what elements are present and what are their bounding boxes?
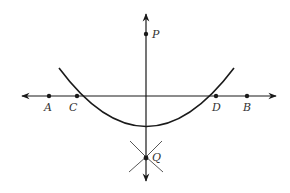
label-q: Q [152, 151, 161, 164]
point-c [75, 94, 79, 98]
label-d: D [211, 101, 221, 114]
point-a [47, 94, 51, 98]
label-b: B [242, 101, 251, 114]
point-p [144, 32, 148, 36]
construction-diagram: P A C D B Q [0, 0, 290, 193]
label-p: P [151, 28, 160, 41]
label-a: A [43, 101, 52, 114]
point-q [144, 156, 149, 161]
point-b [245, 94, 249, 98]
point-d [214, 94, 218, 98]
label-c: C [69, 101, 78, 114]
